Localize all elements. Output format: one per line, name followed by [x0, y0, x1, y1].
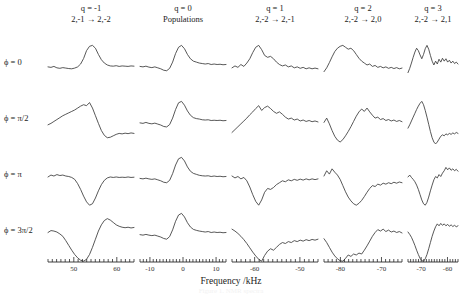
x-tick-label: 60 [113, 265, 121, 273]
x-tick-label: -60 [443, 265, 453, 273]
x-tick-label: 0 [181, 265, 185, 273]
column-transition-label: 2,-1 → 2,-2 [71, 14, 111, 24]
spectrum-trace-c0-r3 [48, 219, 134, 262]
x-tick-label: 10 [213, 265, 221, 273]
spectrum-trace-c0-r0 [48, 45, 134, 68]
spectrum-trace-c3-r3 [324, 229, 402, 261]
column-transition-label: 2,-2 → 2,1 [415, 14, 452, 24]
row-phase-label-1: ϕ = π/2 [4, 113, 28, 123]
spectrum-trace-c2-r0 [232, 45, 318, 68]
column-q-label: q = 1 [266, 3, 284, 13]
spectrum-trace-c1-r3 [140, 213, 226, 239]
row-phase-label-2: ϕ = π [4, 169, 23, 179]
spectrum-trace-c1-r2 [140, 157, 226, 182]
figure-caption: Figure 1. NMR spectra [0, 287, 462, 296]
column-header-3: q = 22,-2 → 2,0 [345, 3, 382, 24]
column-header-4: q = 32,-2 → 2,1 [415, 3, 452, 24]
x-tick-label: -80 [336, 265, 346, 273]
column-header-0: q = -12,-1 → 2,-2 [71, 3, 111, 24]
x-axis-3: -80-70 [324, 257, 402, 273]
column-header-2: q = 12,-2 → 2,-1 [255, 3, 295, 24]
row-phase-label-3: ϕ = 3π/2 [4, 225, 33, 235]
column-q-label: q = 3 [424, 3, 442, 13]
spectrum-trace-c2-r3 [232, 229, 318, 261]
x-axis-title: Frequency /kHz [201, 276, 262, 286]
x-axis-1: -10010 [140, 257, 226, 273]
x-axis-4: -70-60 [408, 257, 458, 273]
x-tick-label: -70 [416, 265, 426, 273]
spectrum-trace-c4-r2 [408, 167, 458, 205]
spectrum-trace-c3-r2 [324, 169, 402, 205]
x-tick-label: -70 [377, 265, 387, 273]
spectrum-trace-c2-r1 [232, 106, 318, 133]
x-tick-label: -10 [145, 265, 155, 273]
x-tick-label: -60 [250, 265, 260, 273]
column-q-label: q = 0 [174, 3, 192, 13]
spectrum-trace-c4-r1 [408, 101, 458, 144]
spectrum-trace-c4-r0 [408, 45, 458, 72]
column-q-label: q = 2 [354, 3, 372, 13]
column-transition-label: 2,-2 → 2,-1 [255, 14, 295, 24]
x-axis-0: 5060 [48, 257, 134, 273]
column-header-1: q = 0Populations [163, 3, 203, 24]
spectrum-trace-c4-r3 [408, 223, 458, 261]
spectrum-trace-c1-r1 [140, 101, 226, 127]
x-tick-label: 50 [70, 265, 78, 273]
spectrum-trace-c2-r2 [232, 176, 318, 205]
spectrum-trace-c0-r2 [48, 175, 134, 206]
column-transition-label: 2,-2 → 2,0 [345, 14, 382, 24]
nmr-spectra-figure: q = -12,-1 → 2,-2q = 0Populationsq = 12,… [0, 0, 462, 296]
figure-canvas: q = -12,-1 → 2,-2q = 0Populationsq = 12,… [0, 0, 462, 296]
spectrum-trace-c3-r1 [324, 108, 402, 142]
spectrum-trace-c0-r1 [48, 103, 134, 138]
x-axis-2: -60-50 [232, 257, 318, 273]
column-transition-label: Populations [163, 14, 203, 24]
spectrum-trace-c1-r0 [140, 45, 226, 70]
spectrum-trace-c3-r0 [324, 45, 402, 71]
row-phase-label-0: ϕ = 0 [4, 57, 22, 67]
x-tick-label: -50 [295, 265, 305, 273]
column-q-label: q = -1 [81, 3, 101, 13]
